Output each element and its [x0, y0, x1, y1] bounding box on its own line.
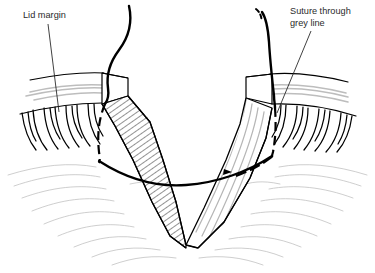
illustration-canvas: Lid margin Suture through grey line [0, 0, 375, 273]
suture-label-line1: Suture through [290, 6, 351, 16]
lid-margin-label: Lid margin [23, 10, 66, 20]
background [0, 0, 375, 273]
eyelid-wound-drawing: Lid margin Suture through grey line [0, 0, 375, 273]
suture-label-line2: grey line [290, 18, 325, 28]
